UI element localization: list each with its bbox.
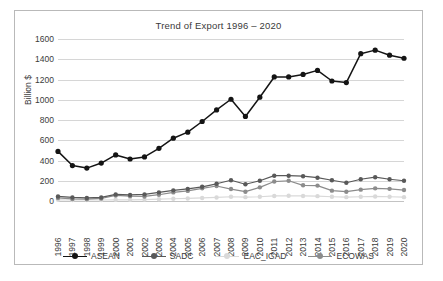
data-point [243, 114, 248, 119]
data-point [200, 196, 204, 200]
chart-title: Trend of Export 1996 – 2020 [15, 20, 422, 31]
data-point [56, 194, 60, 198]
data-point [387, 53, 392, 58]
data-point [330, 188, 334, 192]
x-axis-ticks: 1996199719981999200020012002200320042005… [58, 203, 404, 247]
data-point [300, 72, 305, 77]
data-point [157, 197, 161, 201]
y-tick-label: 400 [40, 156, 54, 166]
data-point [186, 187, 190, 191]
y-tick-label: 800 [40, 115, 54, 125]
data-point [186, 196, 190, 200]
data-point [358, 51, 363, 56]
data-point [243, 189, 247, 193]
legend-marker-icon [142, 252, 166, 261]
legend-label: SADC [170, 251, 194, 261]
data-point [258, 195, 262, 199]
gridline [58, 201, 404, 202]
data-point [286, 173, 290, 177]
data-point [373, 194, 377, 198]
data-point [185, 130, 190, 135]
data-point [402, 188, 406, 192]
y-tick-label: 1000 [35, 95, 54, 105]
data-point [272, 173, 276, 177]
data-point [156, 146, 161, 151]
legend-marker-icon [63, 252, 87, 261]
y-tick-label: 1400 [35, 54, 54, 64]
data-point [272, 194, 276, 198]
legend-item-asean[interactable]: ASEAN [63, 251, 120, 261]
data-point [329, 78, 334, 83]
data-point [200, 185, 204, 189]
data-point [301, 194, 305, 198]
data-point [171, 188, 175, 192]
legend-label: EAC_IGAD [243, 251, 286, 261]
data-point [113, 198, 117, 202]
series-line [58, 50, 404, 168]
data-point [373, 186, 377, 190]
data-point [229, 187, 233, 191]
data-point [127, 156, 132, 161]
data-point [243, 182, 247, 186]
data-point [286, 179, 290, 183]
legend-item-eac_igad[interactable]: EAC_IGAD [215, 251, 286, 261]
data-point [344, 80, 349, 85]
data-point [171, 197, 175, 201]
data-point [84, 165, 89, 170]
plot-area: 02004006008001000120014001600 [58, 39, 404, 201]
data-point [257, 95, 262, 100]
data-point [315, 183, 319, 187]
data-point [301, 174, 305, 178]
data-point [315, 194, 319, 198]
data-point [229, 195, 233, 199]
data-point [330, 178, 334, 182]
data-point [330, 195, 334, 199]
data-point [214, 107, 219, 112]
data-point [142, 154, 147, 159]
data-point [301, 183, 305, 187]
series-eac_igad [56, 194, 406, 203]
data-point [55, 149, 60, 154]
data-point [344, 181, 348, 185]
legend-label: ASEAN [91, 251, 120, 261]
data-point [200, 119, 205, 124]
data-point [243, 195, 247, 199]
chart-legend: ASEANSADCEAC_IGADECOWAS [15, 251, 422, 261]
legend-item-sadc[interactable]: SADC [142, 251, 194, 261]
data-point [272, 179, 276, 183]
data-point [258, 179, 262, 183]
data-point [228, 97, 233, 102]
data-point [286, 74, 291, 79]
data-point [359, 177, 363, 181]
data-point [315, 68, 320, 73]
legend-item-ecowas[interactable]: ECOWAS [308, 251, 373, 261]
data-point [113, 152, 118, 157]
data-point [359, 195, 363, 199]
data-point [402, 179, 406, 183]
data-point [373, 48, 378, 53]
data-point [402, 195, 406, 199]
legend-marker-icon [215, 252, 239, 261]
data-point [387, 177, 391, 181]
data-point [344, 189, 348, 193]
y-tick-label: 600 [40, 135, 54, 145]
data-point [99, 195, 103, 199]
y-tick-label: 1600 [35, 34, 54, 44]
data-point [113, 192, 117, 196]
data-point [142, 192, 146, 196]
data-point [70, 163, 75, 168]
data-point [229, 178, 233, 182]
data-point [214, 195, 218, 199]
data-point [286, 194, 290, 198]
y-tick-label: 200 [40, 176, 54, 186]
data-point [99, 160, 104, 165]
data-point [157, 190, 161, 194]
data-point [401, 56, 406, 61]
data-point [258, 185, 262, 189]
data-point [272, 74, 277, 79]
chart-container: Trend of Export 1996 – 2020 Billion $ 02… [14, 10, 423, 265]
y-tick-label: 1200 [35, 75, 54, 85]
legend-label: ECOWAS [336, 251, 373, 261]
data-point [85, 196, 89, 200]
data-point [70, 195, 74, 199]
